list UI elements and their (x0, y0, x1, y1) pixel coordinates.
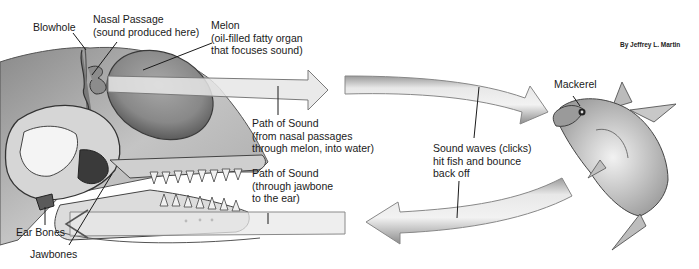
label-sound-waves: Sound waves (clicks) hit fish and bounce… (433, 142, 532, 180)
label-mackerel: Mackerel (554, 78, 597, 91)
label-blowhole: Blowhole (33, 21, 76, 34)
label-melon-desc-2: that focuses sound) (211, 44, 303, 57)
label-nasal-passage: Nasal Passage (sound produced here) (93, 13, 199, 38)
label-path-outgoing-desc-1: (from nasal passages (252, 130, 374, 143)
echolocation-diagram: Blowhole Nasal Passage (sound produced h… (0, 0, 699, 269)
label-nasal-passage-title: Nasal Passage (93, 13, 199, 26)
sound-waves-arrow-to-fish (345, 76, 548, 124)
label-path-incoming: Path of Sound (through jawbone to the ea… (252, 167, 333, 205)
label-jawbones: Jawbones (30, 248, 77, 261)
label-path-outgoing-title: Path of Sound (252, 117, 374, 130)
author-credit: By Jeffrey L. Martin (620, 41, 680, 48)
incoming-sound-path (66, 210, 345, 238)
label-sound-waves-line-1: Sound waves (clicks) (433, 142, 532, 155)
label-path-incoming-desc-1: (through jawbone (252, 180, 333, 193)
label-sound-waves-line-2: hit fish and bounce (433, 155, 532, 168)
label-ear-bones: Ear Bones (16, 226, 65, 239)
label-melon-title: Melon (211, 19, 303, 32)
label-path-incoming-title: Path of Sound (252, 167, 333, 180)
echo-return-arrow (366, 178, 572, 244)
label-melon: Melon (oil-filled fatty organ that focus… (211, 19, 303, 57)
label-sound-waves-line-3: back off (433, 167, 532, 180)
label-path-incoming-desc-2: to the ear) (252, 192, 333, 205)
label-path-outgoing-desc-2: through melon, into water) (252, 142, 374, 155)
label-melon-desc-1: (oil-filled fatty organ (211, 32, 303, 45)
label-nasal-passage-desc: (sound produced here) (93, 26, 199, 39)
mackerel-illustration (553, 82, 676, 250)
label-path-outgoing: Path of Sound (from nasal passages throu… (252, 117, 374, 155)
